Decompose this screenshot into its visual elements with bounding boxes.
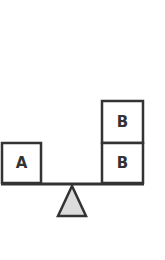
box-a-label: A [16, 154, 28, 172]
box-b-top: B [102, 101, 143, 143]
fulcrum-triangle [58, 186, 86, 216]
box-b-top-label: B [117, 113, 128, 131]
box-b-bottom-label: B [117, 154, 128, 172]
box-a: A [2, 143, 41, 183]
box-b-bottom: B [102, 143, 143, 183]
balance-diagram: A B B [0, 0, 165, 260]
